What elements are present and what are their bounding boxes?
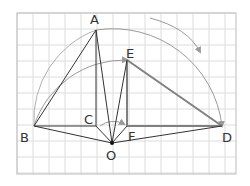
label-C: C [84, 112, 93, 127]
label-A: A [90, 12, 99, 27]
segment-OE [112, 60, 127, 143]
point-O [110, 141, 114, 145]
segment-OB [34, 126, 112, 143]
label-F: F [128, 129, 135, 144]
segment-OA [96, 30, 112, 143]
label-E: E [126, 46, 134, 61]
diagram-canvas: A B C D E F O [0, 0, 250, 186]
geometry-figure: A B C D E F O [0, 0, 250, 186]
label-D: D [222, 130, 232, 145]
label-B: B [20, 130, 29, 145]
label-O: O [106, 148, 116, 163]
